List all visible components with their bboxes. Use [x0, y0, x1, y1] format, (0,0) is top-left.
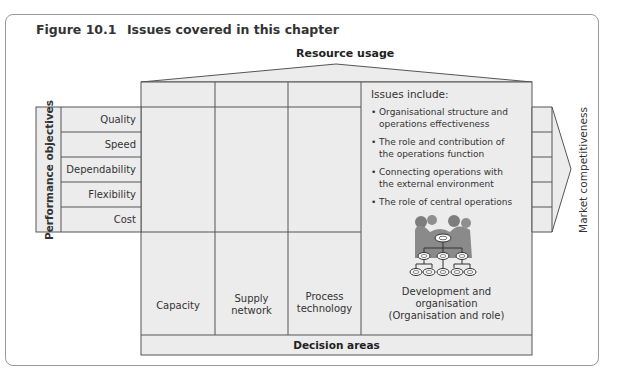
decision-supply-network: Supply network [215, 293, 288, 317]
performance-objectives-label: Performance objectives [36, 107, 61, 232]
issue-item: Organisational structure andoperations e… [371, 106, 531, 130]
issue-item: The role of central operations [371, 196, 531, 208]
development-organisation-caption: Development and organisation (Organisati… [361, 286, 532, 322]
issues-list: Organisational structure andoperations e… [371, 106, 531, 208]
decision-process-technology: Process technology [288, 291, 361, 315]
issues-heading: Issues include: [371, 88, 531, 100]
decision-capacity: Capacity [141, 300, 215, 312]
issue-item: The role and contribution ofthe operatio… [371, 136, 531, 160]
objective-flexibility: Flexibility [62, 182, 136, 207]
decision-areas-label: Decision areas [141, 336, 532, 355]
market-competitiveness-label: Market competitiveness [570, 90, 596, 250]
objective-quality: Quality [62, 107, 136, 132]
issues-panel: Issues include: Organisational structure… [371, 88, 531, 214]
issue-item: Connecting operations withthe external e… [371, 166, 531, 190]
objective-cost: Cost [62, 207, 136, 232]
objective-dependability: Dependability [62, 157, 136, 182]
objective-speed: Speed [62, 132, 136, 157]
roof-shape [141, 64, 532, 82]
